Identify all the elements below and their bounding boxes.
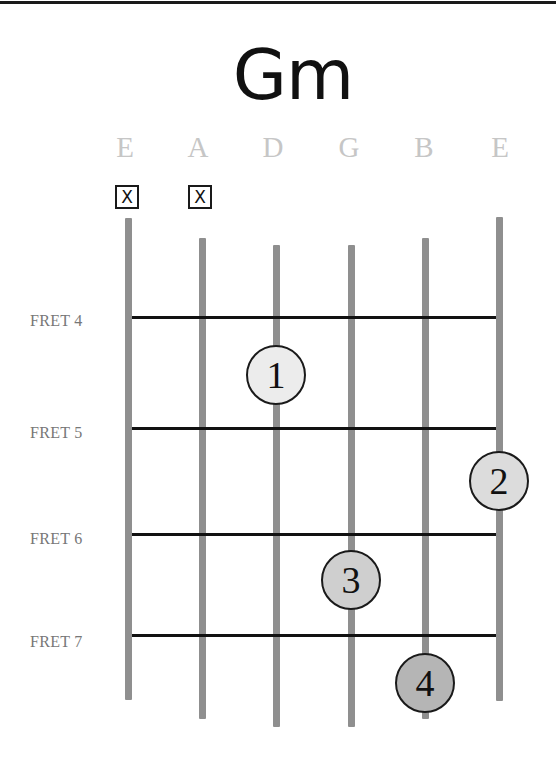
fret-label-7: FRET 7 xyxy=(30,633,83,651)
fret-line-6 xyxy=(132,533,496,536)
string-label-d: D xyxy=(253,130,293,164)
chord-title: Gm xyxy=(0,30,556,120)
string-b xyxy=(422,238,429,719)
string-a xyxy=(199,238,206,719)
finger-number: 1 xyxy=(267,347,286,403)
top-border-rule xyxy=(0,1,556,4)
muted-string-icon-a: X xyxy=(188,185,212,209)
mute-x-glyph: X xyxy=(121,187,133,207)
fret-label-5: FRET 5 xyxy=(30,424,83,442)
finger-number: 3 xyxy=(342,552,361,608)
finger-number: 2 xyxy=(490,453,509,509)
fret-line-7 xyxy=(132,634,496,637)
string-label-g: G xyxy=(329,130,369,164)
finger-number: 4 xyxy=(416,655,435,711)
fret-label-4: FRET 4 xyxy=(30,312,83,330)
fret-label-6: FRET 6 xyxy=(30,530,83,548)
string-low-e xyxy=(125,218,132,700)
mute-x-glyph: X xyxy=(194,187,206,207)
finger-marker-1: 1 xyxy=(246,345,306,405)
string-label-low-e: E xyxy=(105,130,145,164)
string-label-high-e: E xyxy=(480,130,520,164)
string-label-a: A xyxy=(178,130,218,164)
fret-line-5 xyxy=(132,427,496,430)
finger-marker-2: 2 xyxy=(469,451,529,511)
string-label-b: B xyxy=(404,130,444,164)
finger-marker-4: 4 xyxy=(395,653,455,713)
finger-marker-3: 3 xyxy=(321,550,381,610)
muted-string-icon-low-e: X xyxy=(115,185,139,209)
fret-line-4 xyxy=(132,316,496,319)
